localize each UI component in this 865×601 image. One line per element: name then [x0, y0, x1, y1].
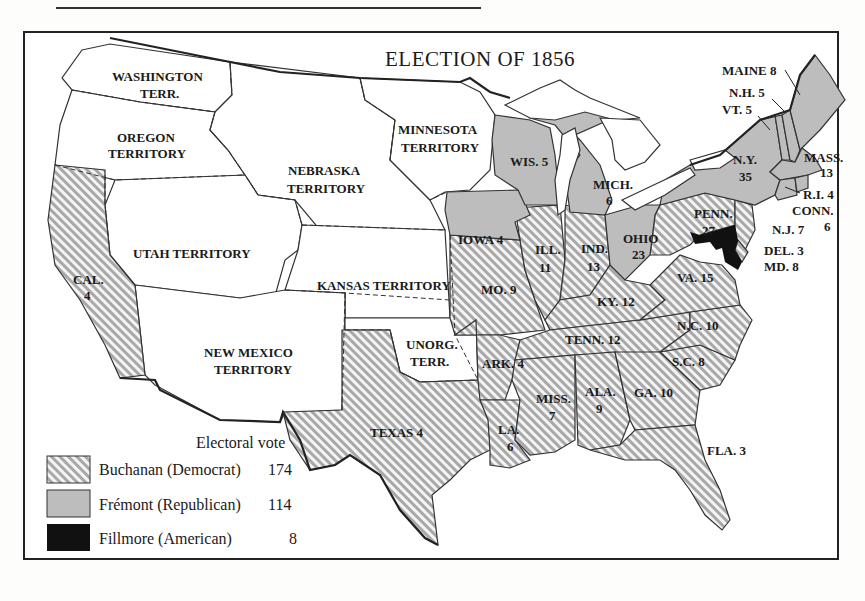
legend-heading: Electoral vote: [196, 434, 285, 451]
lake-superior: [505, 80, 640, 120]
label-cal: CAL.: [73, 272, 104, 287]
label-ill: ILL.: [535, 242, 561, 257]
label-cal-ev: 4: [84, 288, 91, 303]
label-penn: PENN.: [694, 206, 733, 221]
label-vt: VT. 5: [722, 102, 753, 117]
label-new-mexico-2: TERRITORY: [214, 362, 293, 377]
label-oregon-2: TERRITORY: [108, 146, 187, 161]
label-ala-ev: 9: [596, 401, 603, 416]
label-wis: WIS. 5: [510, 154, 549, 169]
label-nebraska-2: TERRITORY: [287, 181, 366, 196]
label-mass-ev: 13: [820, 165, 834, 180]
legend-swatch-fillmore: [47, 524, 90, 551]
label-mass: MASS.: [804, 150, 843, 165]
label-oregon: OREGON: [117, 130, 175, 145]
label-unorg: UNORG.: [406, 337, 458, 352]
label-la: LA.: [498, 422, 519, 437]
legend-label-fremont: Frémont (Republican): [99, 496, 241, 514]
label-nc: N.C. 10: [677, 318, 719, 333]
legend-label-buchanan: Buchanan (Democrat): [99, 461, 241, 479]
label-conn-ev: 6: [824, 219, 831, 234]
label-mich-ev: 6: [606, 193, 613, 208]
label-minnesota-2: TERRITORY: [401, 140, 480, 155]
label-del: DEL. 3: [764, 243, 804, 258]
label-ny-ev: 35: [739, 169, 753, 184]
label-ill-ev: 11: [539, 260, 551, 275]
label-miss-ev: 7: [549, 408, 556, 423]
label-ri: R.I. 4: [803, 187, 834, 202]
label-ind: IND.: [581, 241, 608, 256]
legend-votes-buchanan: 174: [268, 461, 292, 478]
label-ohio: OHIO: [623, 231, 658, 246]
label-conn: CONN.: [792, 203, 834, 218]
label-maine: MAINE 8: [722, 63, 777, 78]
legend-label-fillmore: Fillmore (American): [99, 530, 232, 548]
label-ala: ALA.: [585, 384, 616, 399]
label-md: MD. 8: [764, 259, 799, 274]
label-utah: UTAH TERRITORY: [133, 246, 251, 261]
legend-swatch-fremont: [47, 490, 90, 517]
label-unorg-2: TERR.: [410, 354, 449, 369]
label-la-ev: 6: [507, 439, 514, 454]
label-minnesota: MINNESOTA: [398, 122, 478, 137]
label-miss: MISS.: [536, 391, 571, 406]
label-texas: TEXAS 4: [370, 425, 424, 440]
label-ny: N.Y.: [733, 152, 757, 167]
label-tenn: TENN. 12: [565, 332, 621, 347]
label-nh: N.H. 5: [729, 85, 765, 100]
label-nebraska: NEBRASKA: [288, 163, 361, 178]
label-mo: MO. 9: [481, 282, 517, 297]
legend-swatch-buchanan: [47, 456, 90, 483]
label-ark: ARK. 4: [482, 356, 524, 371]
label-ga: GA. 10: [634, 385, 673, 400]
label-ohio-ev: 23: [632, 247, 646, 262]
maine: [790, 55, 845, 150]
label-washington-2: TERR.: [140, 86, 179, 101]
label-ky: KY. 12: [597, 294, 635, 309]
legend-votes-fillmore: 8: [289, 530, 297, 547]
label-fla: FLA. 3: [707, 443, 747, 458]
label-va: VA. 15: [677, 270, 714, 285]
label-penn-ev: 27: [702, 223, 716, 238]
election-map: ELECTION OF 1856 WASHINGTON TERR. OREGON…: [0, 0, 865, 601]
label-new-mexico: NEW MEXICO: [204, 345, 293, 360]
label-sc: S.C. 8: [672, 354, 705, 369]
label-iowa: IOWA 4: [458, 232, 504, 247]
label-kansas: KANSAS TERRITORY: [317, 278, 451, 293]
label-ind-ev: 13: [587, 259, 601, 274]
label-mich: MICH.: [593, 177, 633, 192]
lake-huron: [600, 118, 660, 170]
map-title: ELECTION OF 1856: [385, 47, 575, 71]
legend-votes-fremont: 114: [268, 496, 291, 513]
legend: Electoral vote Buchanan (Democrat) 174 F…: [47, 434, 297, 551]
label-washington: WASHINGTON: [112, 69, 203, 84]
label-nj: N.J. 7: [772, 222, 805, 237]
